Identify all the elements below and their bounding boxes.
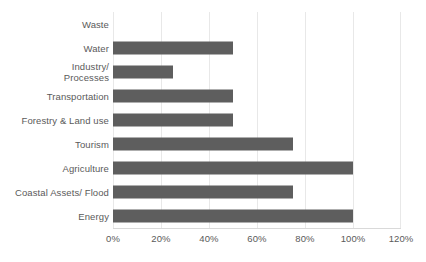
- bar-track: [113, 162, 401, 175]
- bar: [113, 114, 233, 127]
- bar-row: Agriculture: [0, 156, 426, 180]
- category-label: Transportation: [0, 91, 109, 102]
- bar-row: Waste: [0, 12, 426, 36]
- x-tick-label: 40%: [189, 232, 229, 245]
- bar: [113, 186, 293, 199]
- bar-row: Coastal Assets/ Flood: [0, 180, 426, 204]
- x-tick-label: 20%: [141, 232, 181, 245]
- bar-row: Water: [0, 36, 426, 60]
- bar-row: Transportation: [0, 84, 426, 108]
- bar-track: [113, 66, 401, 79]
- category-label: Energy: [0, 211, 109, 222]
- x-tick-label: 60%: [237, 232, 277, 245]
- category-rows: Waste Water Industry/ Processes Transpor…: [0, 12, 426, 228]
- category-label: Tourism: [0, 139, 109, 150]
- bar-track: [113, 114, 401, 127]
- x-axis-line: [113, 228, 401, 229]
- bar-track: [113, 138, 401, 151]
- bar: [113, 66, 173, 79]
- bar-track: [113, 90, 401, 103]
- category-label: Coastal Assets/ Flood: [0, 187, 109, 198]
- category-label: Forestry & Land use: [0, 115, 109, 126]
- bar: [113, 162, 353, 175]
- bar-track: [113, 186, 401, 199]
- x-tick-label: 0%: [93, 232, 133, 245]
- bar-row: Industry/ Processes: [0, 60, 426, 84]
- bar: [113, 138, 293, 151]
- bar-track: [113, 42, 401, 55]
- x-tick-label: 120%: [381, 232, 421, 245]
- category-label: Industry/ Processes: [0, 61, 109, 83]
- x-tick-label: 80%: [285, 232, 325, 245]
- bar: [113, 210, 353, 223]
- bar-row: Forestry & Land use: [0, 108, 426, 132]
- bar-track: [113, 210, 401, 223]
- bar-track: [113, 18, 401, 31]
- bar-chart: Waste Water Industry/ Processes Transpor…: [0, 0, 426, 262]
- bar: [113, 42, 233, 55]
- bar-row: Tourism: [0, 132, 426, 156]
- x-axis-ticks: 0% 20% 40% 60% 80% 100% 120%: [0, 232, 426, 252]
- bar-row: Energy: [0, 204, 426, 228]
- x-tick-label: 100%: [333, 232, 373, 245]
- bar: [113, 90, 233, 103]
- category-label: Water: [0, 43, 109, 54]
- category-label: Agriculture: [0, 163, 109, 174]
- category-label: Waste: [0, 19, 109, 30]
